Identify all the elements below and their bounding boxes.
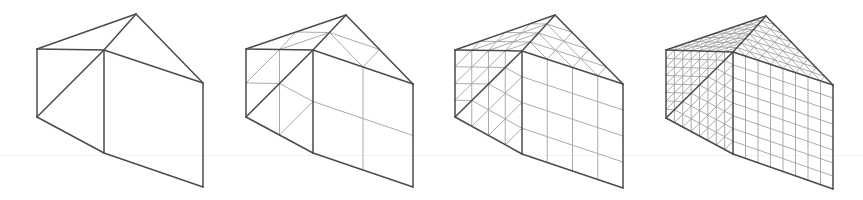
mesh-edge: [505, 68, 522, 77]
mesh-edge: [725, 141, 733, 149]
mesh-edge: [729, 29, 754, 30]
mesh-outline-edge: [455, 50, 522, 51]
mesh-refinement-diagram: [0, 0, 863, 200]
mesh-edge: [821, 76, 825, 81]
mesh-edge: [296, 32, 330, 33]
mesh-outline-edge: [104, 153, 203, 187]
mesh-outline-edge: [666, 50, 733, 52]
mesh-edge: [280, 84, 314, 102]
mesh-edge: [666, 93, 691, 94]
mesh-outline-edge: [37, 50, 104, 117]
mesh-outline-edge: [246, 49, 313, 50]
mesh-panel-level-2: [246, 15, 413, 187]
mesh-outline-edge: [136, 14, 203, 83]
mesh-outline-edge: [104, 50, 203, 83]
mesh-edge: [666, 50, 674, 58]
mesh-edge: [363, 50, 380, 68]
mesh-outline-edge: [37, 117, 104, 153]
mesh-edge: [246, 50, 280, 84]
mesh-edge: [666, 76, 708, 77]
mesh-panel-level-4: [666, 16, 833, 189]
mesh-edge: [771, 42, 792, 64]
mesh-edge: [725, 60, 733, 65]
mesh-edge: [598, 67, 606, 76]
mesh-edge: [708, 77, 733, 91]
mesh-panel-level-3: [455, 15, 623, 188]
mesh-panel-level-1: [37, 14, 203, 187]
mesh-edge: [472, 101, 522, 129]
mesh-edge: [480, 41, 530, 42]
mesh-edge: [505, 128, 522, 145]
mesh-outline-edge: [37, 49, 104, 50]
mesh-edge: [280, 102, 314, 136]
mesh-outline-edge: [346, 15, 413, 84]
mesh-edge: [246, 83, 280, 84]
mesh-edge: [708, 116, 733, 141]
mesh-edge: [455, 67, 505, 68]
mesh-edge: [455, 50, 472, 67]
